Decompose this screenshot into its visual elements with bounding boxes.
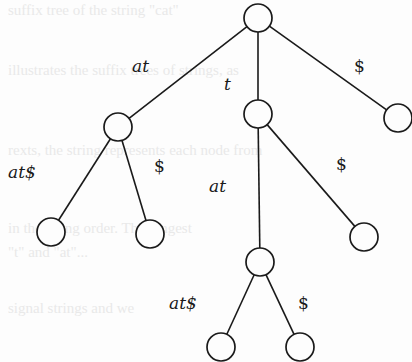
tree-edge <box>122 140 146 220</box>
edge-label: $ <box>354 56 365 76</box>
tree-edge <box>266 275 294 335</box>
tree-node <box>207 333 235 361</box>
tree-node <box>136 220 164 248</box>
tree-edge <box>59 139 111 220</box>
edge-label: $ <box>336 154 347 174</box>
suffix-tree-diagram: att$at$$at$at$$ <box>0 0 412 362</box>
edge-label: $ <box>154 156 165 176</box>
edge-label: at <box>132 56 149 76</box>
edge-label: at <box>209 176 226 196</box>
tree-edge <box>227 275 254 335</box>
tree-node <box>37 218 65 246</box>
edge-labels: att$at$$at$at$$ <box>8 56 365 313</box>
tree-node <box>286 333 314 361</box>
tree-node <box>104 113 132 141</box>
edge-label: at$ <box>8 162 36 182</box>
edge-label: $ <box>298 293 309 313</box>
edge-label: t <box>224 74 231 94</box>
tree-node <box>246 248 274 276</box>
edge-label: at$ <box>169 293 197 313</box>
tree-node <box>244 100 272 128</box>
tree-edge <box>267 125 355 227</box>
tree-edge <box>269 26 386 110</box>
tree-node <box>350 223 378 251</box>
tree-node <box>384 104 412 132</box>
tree-root-node <box>244 4 272 32</box>
tree-edge <box>258 128 260 248</box>
